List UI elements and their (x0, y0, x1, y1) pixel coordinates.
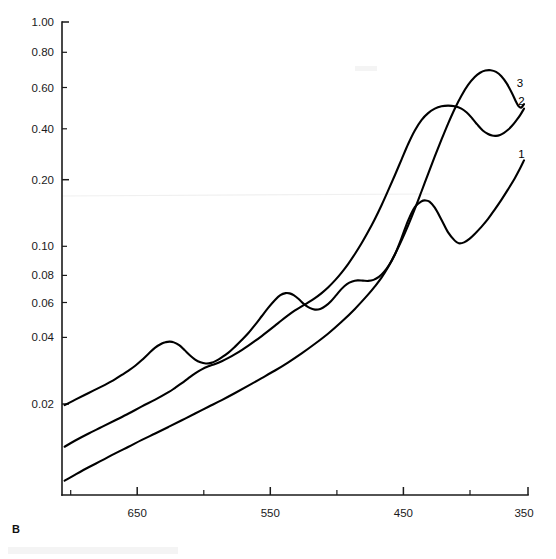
x-tick-label-450: 450 (394, 507, 413, 519)
y-tick-label-0-04: 0.04 (32, 331, 55, 343)
y-tick-label-0-10: 0.10 (32, 240, 54, 252)
y-tick-label-0-80: 0.80 (32, 46, 54, 58)
axis-frame (62, 22, 528, 495)
y-tick-label-0-60: 0.60 (32, 82, 54, 94)
x-tick-label-350: 350 (514, 507, 533, 519)
curve-label-1: 1 (518, 148, 524, 160)
y-tick-label-1-00: 1.00 (32, 16, 54, 28)
absorption-spectrum-chart: 1.00 0.80 0.60 0.40 0.20 0.10 0.08 0.06 … (0, 0, 556, 559)
spectrum-curve-1 (65, 160, 524, 480)
x-axis-tick-labels: 650 550 450 350 (128, 507, 534, 519)
y-tick-label-0-08: 0.08 (32, 269, 54, 281)
y-tick-label-0-40: 0.40 (32, 123, 54, 135)
scan-artifacts (8, 66, 430, 554)
figure-panel-b: 1.00 0.80 0.60 0.40 0.20 0.10 0.08 0.06 … (0, 0, 556, 559)
spectra-curves (65, 70, 524, 480)
y-axis-ticks (62, 22, 69, 404)
x-tick-label-550: 550 (261, 507, 280, 519)
spectrum-curve-2 (65, 106, 524, 447)
y-tick-label-0-02: 0.02 (32, 398, 54, 410)
spectrum-curve-3 (65, 70, 524, 405)
y-axis-tick-labels: 1.00 0.80 0.60 0.40 0.20 0.10 0.08 0.06 … (32, 16, 55, 410)
x-tick-label-650: 650 (128, 507, 147, 519)
panel-label: B (12, 523, 20, 535)
y-tick-label-0-06: 0.06 (32, 297, 54, 309)
curve-label-2: 2 (518, 95, 524, 107)
curve-label-3: 3 (517, 77, 523, 89)
y-tick-label-0-20: 0.20 (32, 174, 54, 186)
x-axis-ticks (71, 487, 528, 495)
